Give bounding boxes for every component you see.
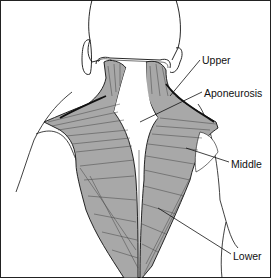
label-lower: Lower (233, 251, 262, 262)
left-arm-outline (16, 92, 72, 192)
leader-upper (170, 60, 200, 96)
anatomy-illustration (0, 0, 271, 278)
head-outline-left (88, 0, 100, 62)
left-ear (82, 40, 92, 75)
head-outline-right (172, 0, 180, 60)
label-upper: Upper (202, 55, 231, 66)
leader-lower (158, 208, 231, 254)
label-middle: Middle (231, 159, 262, 170)
label-aponeurosis: Aponeurosis (204, 88, 262, 99)
trapezius-diagram: Upper Aponeurosis Middle Lower (0, 0, 271, 278)
